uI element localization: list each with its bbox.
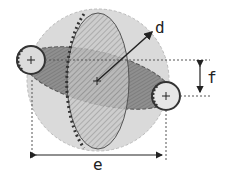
label-d: d [155, 20, 165, 36]
label-e: e [93, 157, 103, 173]
sphere-diagram [0, 0, 229, 174]
label-f: f [207, 70, 217, 86]
